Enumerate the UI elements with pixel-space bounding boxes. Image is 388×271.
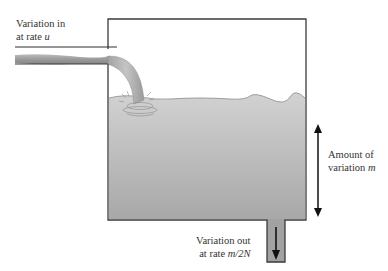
amount-variable: m: [368, 162, 376, 173]
water-body: [109, 93, 305, 219]
amount-label-line1: Amount of: [328, 148, 376, 161]
amount-double-arrow: [314, 124, 322, 217]
outflow-label-line1: Variation out: [196, 234, 251, 247]
inflow-label: Variation in at rate u: [16, 17, 65, 43]
inflow-label-line2: at rate u: [16, 30, 65, 43]
outflow-label: Variation out at rate m/2N: [196, 234, 251, 260]
amount-label: Amount of variation m: [328, 148, 376, 174]
inlet-pipe: [15, 47, 117, 64]
amount-prefix: variation: [328, 162, 368, 173]
tank-diagram: Variation in at rate u Amount of variati…: [0, 0, 388, 271]
inflow-rate-prefix: at rate: [16, 31, 45, 42]
inflow-rate-variable: u: [45, 31, 50, 42]
amount-label-line2: variation m: [328, 161, 376, 174]
outflow-rate-prefix: at rate: [199, 248, 228, 259]
outflow-rate-variable: m/2N: [228, 248, 251, 259]
inflow-label-line1: Variation in: [16, 17, 65, 30]
outflow-label-line2: at rate m/2N: [196, 247, 251, 260]
